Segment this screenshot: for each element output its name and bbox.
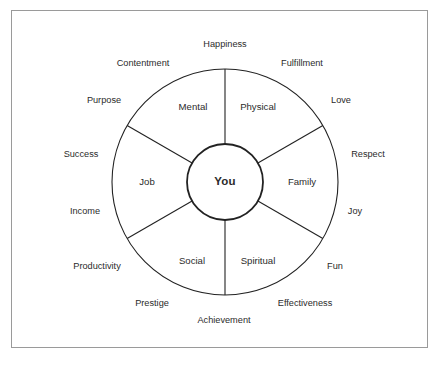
spoke-line-5 <box>258 126 323 164</box>
outer-label-fun: Fun <box>327 262 343 271</box>
outer-label-love: Love <box>331 96 351 105</box>
outer-label-happiness: Happiness <box>203 40 246 49</box>
outer-label-effectiveness: Effectiveness <box>278 299 332 308</box>
outer-label-respect: Respect <box>351 150 385 159</box>
outer-label-joy: Joy <box>348 207 362 216</box>
spoke-line-4 <box>258 201 323 239</box>
center-label: You <box>214 176 235 188</box>
outer-label-fulfillment: Fulfillment <box>281 59 323 68</box>
outer-label-productivity: Productivity <box>73 262 121 271</box>
sector-label-spiritual: Spiritual <box>241 256 276 266</box>
life-balance-wheel-diagram: You MentalPhysicalFamilySpiritualSocialJ… <box>0 0 440 365</box>
outer-label-prestige: Prestige <box>135 299 169 308</box>
outer-label-purpose: Purpose <box>87 96 121 105</box>
sector-label-mental: Mental <box>179 102 208 112</box>
sector-label-family: Family <box>288 177 316 187</box>
sector-label-physical: Physical <box>240 102 276 112</box>
spoke-line-1 <box>127 126 192 164</box>
outer-label-income: Income <box>70 207 100 216</box>
sector-label-job: Job <box>139 177 154 187</box>
outer-label-success: Success <box>64 150 99 159</box>
outer-label-contentment: Contentment <box>117 59 170 68</box>
sector-label-social: Social <box>179 256 205 266</box>
spoke-line-2 <box>127 201 192 239</box>
outer-label-achievement: Achievement <box>197 316 250 325</box>
